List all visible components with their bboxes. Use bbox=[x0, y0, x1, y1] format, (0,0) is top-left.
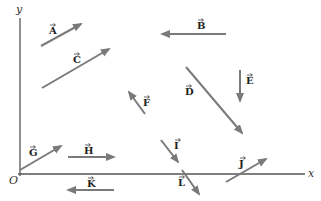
y-axis-label: y bbox=[15, 3, 23, 16]
vector-label: C bbox=[73, 54, 81, 65]
vector-label: F bbox=[143, 97, 150, 108]
vector-label: G bbox=[29, 147, 38, 158]
vectors-group: ABCDEFGHIJKL bbox=[20, 19, 266, 195]
vector-label: A bbox=[48, 25, 57, 36]
vector-arrow bbox=[41, 24, 81, 46]
vector-e: E bbox=[240, 70, 254, 101]
x-axis-label: x bbox=[308, 167, 315, 180]
vector-d: D bbox=[185, 67, 242, 133]
vector-f: F bbox=[129, 92, 150, 114]
vector-k: K bbox=[68, 177, 114, 191]
vector-c: C bbox=[42, 49, 109, 88]
vector-arrow bbox=[186, 67, 242, 133]
vector-g: G bbox=[20, 146, 61, 171]
vector-arrow bbox=[226, 159, 266, 182]
vector-arrow bbox=[20, 146, 61, 170]
vector-label: E bbox=[246, 75, 254, 86]
vector-label: D bbox=[185, 86, 194, 97]
vector-j: J bbox=[226, 157, 266, 183]
vector-label: J bbox=[238, 158, 244, 169]
vector-diagram: x y O ABCDEFGHIJKL bbox=[0, 0, 321, 201]
vector-i: I bbox=[161, 139, 181, 163]
origin-label: O bbox=[9, 174, 18, 187]
vector-a: A bbox=[41, 24, 81, 47]
vector-label: L bbox=[178, 177, 185, 188]
vector-b: B bbox=[162, 19, 226, 35]
vector-h: H bbox=[68, 144, 114, 158]
vector-label: K bbox=[87, 178, 96, 189]
vector-label: I bbox=[174, 140, 179, 151]
vector-label: B bbox=[197, 20, 205, 31]
